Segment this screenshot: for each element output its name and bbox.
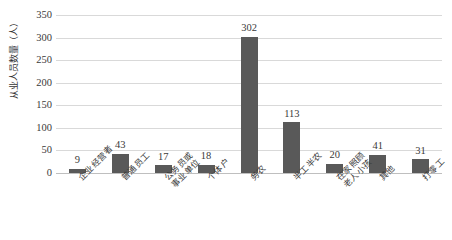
x-label-slot: 个体户	[185, 174, 228, 240]
bar-value-label: 113	[284, 109, 299, 120]
bar-slot: 20	[313, 15, 356, 173]
x-label-slot: 务农	[228, 174, 271, 240]
bar-slot: 17	[142, 15, 185, 173]
bar-value-label: 18	[201, 151, 212, 162]
bar-slot: 18	[185, 15, 228, 173]
x-label-slot: 普通员工	[99, 174, 142, 240]
bar-slot: 41	[356, 15, 399, 173]
bar[interactable]	[283, 122, 300, 173]
bar-slot: 31	[399, 15, 442, 173]
bar-value-label: 17	[158, 152, 169, 163]
bar-slot: 9	[56, 15, 99, 173]
y-tick-label: 200	[36, 77, 52, 88]
x-label-slot: 公务员或事业单位	[142, 174, 185, 240]
bar-slot: 113	[270, 15, 313, 173]
y-tick-label: 350	[36, 10, 52, 21]
y-axis-tick-labels: 350300250200150100500	[22, 15, 52, 173]
y-tick-label: 0	[47, 168, 52, 179]
bar[interactable]	[241, 37, 258, 173]
bar-chart: 从业人员数量（人） 350300250200150100500 94317183…	[0, 0, 452, 240]
y-tick-label: 50	[42, 145, 53, 156]
y-tick-label: 100	[36, 123, 52, 134]
x-axis-category-labels: 企业经营者普通员工公务员或事业单位个体户务农半工半农在家照顾老人小孩其他打零工	[56, 174, 442, 240]
bar-value-label: 20	[330, 150, 341, 161]
bar-value-label: 43	[115, 140, 126, 151]
y-axis-title: 从业人员数量（人）	[7, 0, 20, 124]
bar-value-label: 302	[241, 23, 257, 34]
x-label-slot: 在家照顾老人小孩	[313, 174, 356, 240]
bar-value-label: 41	[372, 141, 383, 152]
x-label-slot: 打零工	[399, 174, 442, 240]
x-label-slot: 企业经营者	[56, 174, 99, 240]
bar-slot: 302	[228, 15, 271, 173]
bar-value-label: 31	[415, 146, 426, 157]
x-label-slot: 其他	[356, 174, 399, 240]
x-label-slot: 半工半农	[270, 174, 313, 240]
bar-value-label: 9	[75, 155, 80, 166]
y-tick-label: 150	[36, 100, 52, 111]
y-tick-label: 300	[36, 32, 52, 43]
y-tick-label: 250	[36, 55, 52, 66]
